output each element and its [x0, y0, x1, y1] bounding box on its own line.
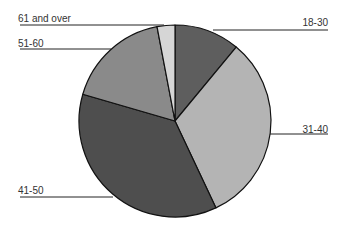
slice-label: 61 and over	[18, 13, 71, 24]
slice-label: 41-50	[18, 185, 44, 196]
slice-label: 51-60	[18, 38, 44, 49]
slice-label: 18-30	[302, 17, 328, 28]
slice-label: 31-40	[302, 124, 328, 135]
pie-chart	[0, 0, 346, 234]
pie-slices	[79, 25, 271, 217]
